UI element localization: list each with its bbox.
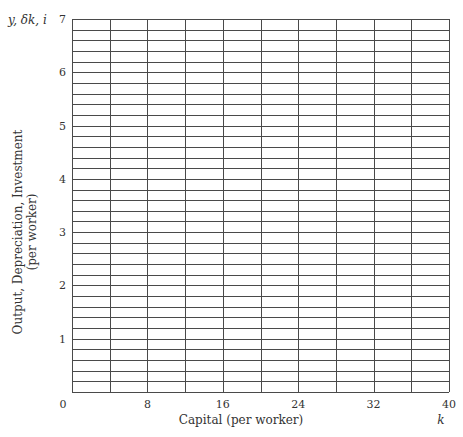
y-axis-ticks: 1234567 (59, 13, 66, 346)
y-axis-label: Output, Depreciation, Investment (11, 129, 25, 334)
blank-graph-chart: 1234567 0816243240 y, δk, i Output, Depr… (0, 0, 463, 437)
x-axis-symbol: k (437, 413, 444, 427)
x-tick-label: 0 (60, 398, 67, 411)
x-tick-label: 40 (442, 398, 456, 411)
x-axis-ticks: 0816243240 (60, 398, 457, 411)
y-tick-label: 4 (59, 173, 66, 186)
x-tick-label: 8 (144, 398, 151, 411)
y-tick-label: 6 (59, 66, 66, 79)
y-axis-symbol: y, δk, i (7, 13, 47, 27)
y-tick-label: 5 (59, 120, 66, 133)
y-tick-label: 7 (59, 13, 66, 26)
y-tick-label: 1 (59, 333, 66, 346)
x-tick-label: 32 (367, 398, 381, 411)
grid-lines (72, 19, 450, 393)
x-axis-label: Capital (per worker) (179, 413, 304, 427)
y-tick-label: 2 (59, 279, 66, 292)
y-axis-sublabel: (per worker) (25, 193, 39, 270)
y-tick-label: 3 (59, 226, 66, 239)
x-tick-label: 16 (216, 398, 230, 411)
x-tick-label: 24 (291, 398, 305, 411)
